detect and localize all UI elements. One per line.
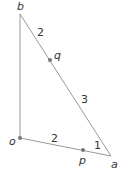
point-o [18,136,22,140]
point-q [48,58,52,62]
label-p: p [78,154,86,167]
point-p [81,148,85,152]
length-bq: 2 [37,26,44,39]
label-o: o [9,135,16,148]
length-op: 2 [51,132,58,145]
triangle-diagram: b o a q p 2 3 2 1 [0,0,130,172]
segment-ba [20,14,111,156]
label-b: b [17,0,24,13]
label-q: q [54,49,61,62]
length-pa: 1 [94,139,101,152]
length-qa: 3 [81,93,88,106]
label-a: a [111,158,118,171]
